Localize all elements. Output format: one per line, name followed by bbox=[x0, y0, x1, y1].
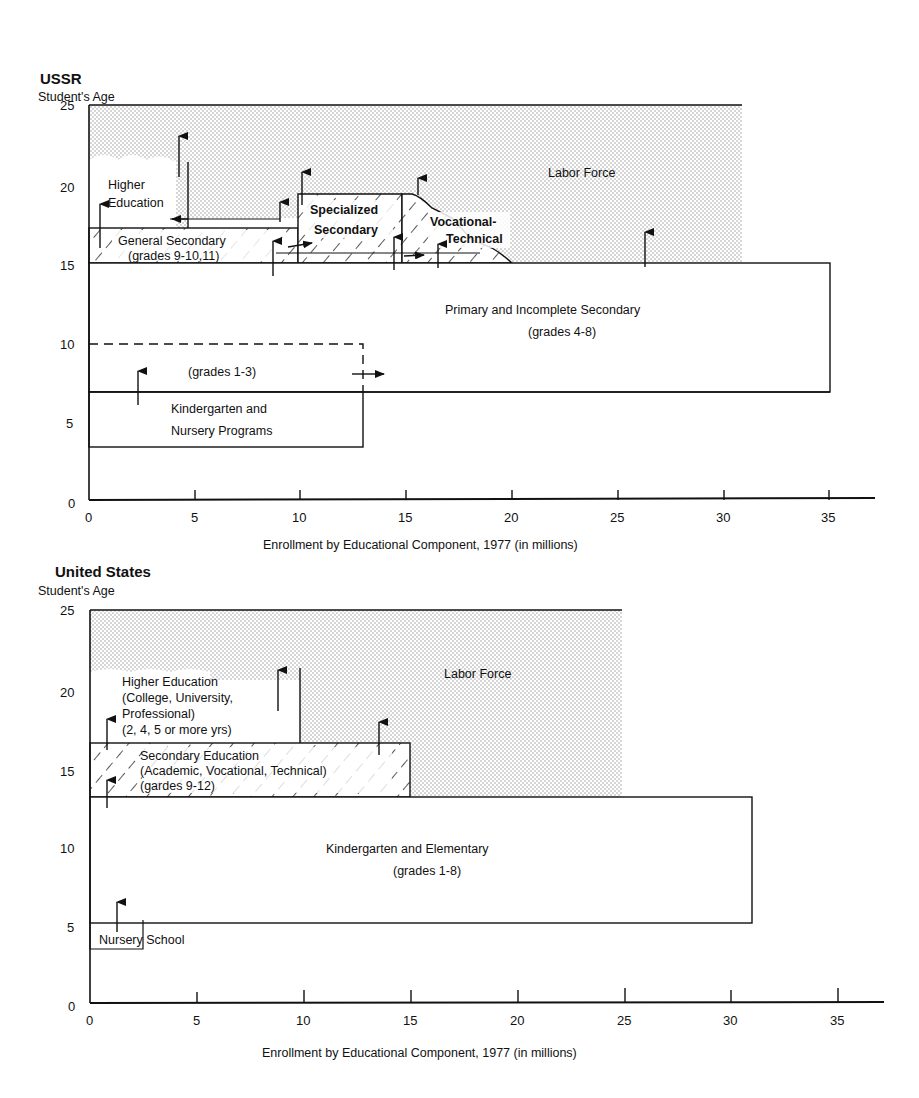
us-y-axis-label: Student's Age bbox=[38, 584, 115, 598]
ussr-label-grades-1-3: (grades 1-3) bbox=[188, 365, 256, 379]
ussr-label-labor-force: Labor Force bbox=[548, 166, 615, 180]
us-label-kindergarten-elementary: Kindergarten and Elementary bbox=[326, 842, 489, 856]
us-label-higher-1: Higher Education bbox=[122, 675, 218, 689]
svg-text:0: 0 bbox=[85, 510, 92, 525]
ussr-x-tick-labels: 0 5 10 15 20 25 30 35 bbox=[85, 510, 835, 525]
us-x-axis bbox=[90, 1002, 884, 1003]
figure: USSR Student's Age bbox=[0, 0, 919, 1098]
ussr-label-higher-1: Higher bbox=[108, 178, 145, 192]
svg-text:30: 30 bbox=[716, 510, 730, 525]
svg-text:5: 5 bbox=[67, 920, 74, 935]
ussr-title: USSR bbox=[40, 70, 82, 87]
svg-text:10: 10 bbox=[296, 1013, 310, 1028]
svg-text:15: 15 bbox=[60, 258, 74, 273]
us-label-nursery-school: Nursery School bbox=[99, 933, 184, 947]
svg-text:5: 5 bbox=[193, 1013, 200, 1028]
ussr-kindergarten-nursery-region bbox=[89, 392, 363, 447]
svg-text:0: 0 bbox=[68, 496, 75, 511]
svg-text:25: 25 bbox=[617, 1013, 631, 1028]
us-label-secondary-3: (gardes 9-12) bbox=[140, 779, 215, 793]
ussr-x-axis-label: Enrollment by Educational Component, 197… bbox=[263, 538, 578, 552]
svg-text:30: 30 bbox=[723, 1013, 737, 1028]
us-label-secondary-1: Secondary Education bbox=[140, 749, 259, 763]
us-label-labor-force: Labor Force bbox=[444, 667, 511, 681]
us-label-higher-3: Professional) bbox=[122, 707, 195, 721]
ussr-label-kindergarten: Kindergarten and bbox=[171, 402, 267, 416]
svg-text:20: 20 bbox=[60, 180, 74, 195]
svg-text:20: 20 bbox=[60, 685, 74, 700]
svg-text:15: 15 bbox=[398, 510, 412, 525]
svg-text:25: 25 bbox=[610, 510, 624, 525]
svg-text:5: 5 bbox=[191, 510, 198, 525]
svg-text:10: 10 bbox=[60, 841, 74, 856]
svg-text:5: 5 bbox=[66, 416, 73, 431]
svg-text:25: 25 bbox=[60, 98, 74, 113]
ussr-x-axis bbox=[89, 498, 875, 500]
svg-text:15: 15 bbox=[60, 764, 74, 779]
us-kindergarten-elementary-region bbox=[90, 797, 752, 923]
us-label-higher-2: (College, University, bbox=[122, 691, 233, 705]
ussr-y-axis-label: Student's Age bbox=[38, 90, 115, 104]
ussr-label-secondary: Secondary bbox=[314, 223, 378, 237]
ussr-right-arrow-icon bbox=[404, 255, 424, 256]
svg-text:0: 0 bbox=[86, 1013, 93, 1028]
us-y-tick-labels: 25 20 15 10 5 0 bbox=[60, 603, 75, 1014]
us-x-axis-label: Enrollment by Educational Component, 197… bbox=[262, 1046, 577, 1060]
ussr-label-vocational: Vocational- bbox=[430, 215, 496, 229]
svg-text:10: 10 bbox=[60, 337, 74, 352]
svg-text:35: 35 bbox=[821, 510, 835, 525]
us-x-ticks bbox=[197, 988, 838, 1003]
us-x-tick-labels: 0 5 10 15 20 25 30 35 bbox=[86, 1013, 844, 1028]
us-chart: United States Student's Age Labor Force … bbox=[38, 563, 884, 1060]
ussr-label-technical: Technical bbox=[446, 232, 503, 246]
svg-text:35: 35 bbox=[830, 1013, 844, 1028]
ussr-chart: USSR Student's Age bbox=[38, 70, 875, 552]
ussr-label-primary: Primary and Incomplete Secondary bbox=[445, 303, 641, 317]
ussr-label-higher-2: Education bbox=[108, 196, 164, 210]
svg-text:10: 10 bbox=[292, 510, 306, 525]
ussr-label-specialized: Specialized bbox=[310, 203, 378, 217]
us-label-grades-1-8: (grades 1-8) bbox=[393, 864, 461, 878]
ussr-label-general-secondary: General Secondary bbox=[118, 234, 226, 248]
svg-text:20: 20 bbox=[510, 1013, 524, 1028]
us-label-higher-4: (2, 4, 5 or more yrs) bbox=[122, 723, 232, 737]
svg-text:20: 20 bbox=[504, 510, 518, 525]
ussr-label-primary-grades: (grades 4-8) bbox=[528, 325, 596, 339]
svg-text:25: 25 bbox=[60, 603, 74, 618]
us-title: United States bbox=[55, 563, 151, 580]
svg-text:15: 15 bbox=[403, 1013, 417, 1028]
us-label-secondary-2: (Academic, Vocational, Technical) bbox=[140, 764, 327, 778]
svg-text:0: 0 bbox=[68, 999, 75, 1014]
ussr-label-general-secondary-grades: (grades 9-10,11) bbox=[128, 249, 220, 263]
ussr-y-tick-labels: 25 20 15 10 5 0 bbox=[60, 98, 75, 511]
ussr-label-nursery-programs: Nursery Programs bbox=[171, 424, 272, 438]
